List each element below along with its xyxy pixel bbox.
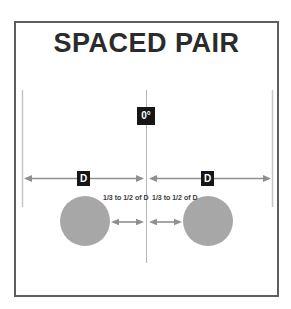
spaced-pair-diagram: SPACED PAIR 0° D D 1/3 to 1/2 of D 1/3 t… bbox=[0, 0, 291, 309]
left-distance-arrowhead-left bbox=[24, 175, 32, 182]
right-mic-circle bbox=[183, 196, 233, 246]
left-mic-circle bbox=[60, 196, 110, 246]
right-spacing-arrowhead-left bbox=[149, 219, 157, 225]
spacing-label-right: 1/3 to 1/2 of D bbox=[152, 194, 212, 201]
right-distance-arrowhead-right bbox=[263, 175, 271, 182]
left-spacing-arrowhead-right bbox=[136, 219, 144, 225]
right-spacing-arrowhead-right bbox=[174, 219, 182, 225]
diagram-canvas bbox=[0, 0, 291, 309]
angle-label: 0° bbox=[137, 107, 155, 125]
left-spacing-arrowhead-left bbox=[111, 219, 119, 225]
distance-label-right: D bbox=[201, 171, 214, 186]
right-distance-arrowhead-left bbox=[149, 175, 157, 182]
left-distance-arrowhead-right bbox=[136, 175, 144, 182]
distance-label-left: D bbox=[77, 171, 90, 186]
